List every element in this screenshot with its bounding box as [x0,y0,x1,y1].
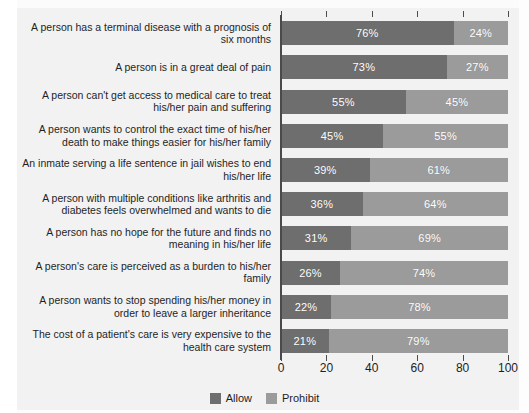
category-label-text: A person's care is perceived as a burden… [18,260,271,285]
category-label: A person wants to control the exact time… [18,119,276,153]
x-tick-mark-top [326,11,327,17]
x-tick-mark-top [463,11,464,17]
bar-segment-allow[interactable]: 31% [281,226,351,250]
category-label-text: The cost of a patient's care is very exp… [18,328,271,353]
chart-page: A person has a terminal disease with a p… [0,0,529,413]
bar-track: 21%79% [281,329,508,353]
legend-item-allow[interactable]: Allow [210,392,252,404]
category-label-text: A person has no hope for the future and … [18,226,271,251]
bar-row: 45%55% [281,124,508,148]
bar-value-prohibit: 24% [469,27,492,39]
bar-track: 45%55% [281,124,508,148]
bar-segment-allow[interactable]: 22% [281,295,331,319]
legend-swatch-icon [210,393,221,404]
bar-segment-prohibit[interactable]: 79% [329,329,508,353]
x-tick-label: 20 [320,361,333,375]
bar-track: 39%61% [281,158,508,182]
category-label-text: A person is in a great deal of pain [115,61,271,74]
bar-row: 21%79% [281,329,508,353]
bar-row: 39%61% [281,158,508,182]
x-tick-mark-bottom [463,355,464,361]
x-axis-tick-labels: 020406080100 [281,361,508,379]
x-tick-mark-bottom [326,355,327,361]
x-tick-label: 40 [365,361,378,375]
x-tick-mark-top [508,11,509,17]
category-label: A person's care is perceived as a burden… [18,255,276,289]
bar-segment-prohibit[interactable]: 55% [383,124,508,148]
legend-item-prohibit[interactable]: Prohibit [266,392,319,404]
bar-row: 73%27% [281,55,508,79]
category-label: A person wants to stop spending his/her … [18,290,276,324]
x-tick-mark-top [372,11,373,17]
bar-value-prohibit: 55% [434,130,457,142]
bar-value-prohibit: 69% [418,232,441,244]
bar-row: 31%69% [281,226,508,250]
bar-segment-allow[interactable]: 26% [281,261,340,285]
bar-track: 73%27% [281,55,508,79]
bar-segment-allow[interactable]: 55% [281,90,406,114]
bar-value-prohibit: 45% [446,96,469,108]
bar-value-prohibit: 78% [408,301,431,313]
category-label-text: A person can't get access to medical car… [18,89,271,114]
category-label: A person has no hope for the future and … [18,221,276,255]
plot-area: 76%24%73%27%55%45%45%55%39%61%36%64%31%6… [281,16,508,358]
bar-row: 55%45% [281,90,508,114]
legend-label: Allow [226,392,252,404]
bar-segment-allow[interactable]: 39% [281,158,370,182]
category-label-text: A person wants to stop spending his/her … [18,294,271,319]
bar-value-allow: 36% [311,198,334,210]
x-tick-mark-bottom [508,355,509,361]
bar-track: 55%45% [281,90,508,114]
bar-segment-prohibit[interactable]: 27% [447,55,508,79]
category-label: The cost of a patient's care is very exp… [18,324,276,358]
bar-track: 31%69% [281,226,508,250]
legend-swatch-icon [266,393,277,404]
category-label-text: A person has a terminal disease with a p… [18,21,271,46]
bar-value-allow: 22% [295,301,318,313]
page-margin-right [519,0,529,413]
category-label-text: A person with multiple conditions like a… [18,192,271,217]
bar-segment-allow[interactable]: 36% [281,192,363,216]
bar-track: 36%64% [281,192,508,216]
chart-legend: AllowProhibit [0,392,529,404]
x-tick-mark-bottom [281,355,282,361]
bar-segment-prohibit[interactable]: 69% [351,226,508,250]
x-tick-label: 80 [456,361,469,375]
bar-segment-allow[interactable]: 73% [281,55,447,79]
category-label: An inmate serving a life sentence in jai… [18,153,276,187]
category-label-text: An inmate serving a life sentence in jai… [18,157,271,182]
bar-segment-prohibit[interactable]: 24% [454,21,508,45]
x-tick-label: 100 [498,361,518,375]
bar-segment-prohibit[interactable]: 64% [363,192,508,216]
bar-segment-prohibit[interactable]: 61% [370,158,508,182]
bar-segment-allow[interactable]: 45% [281,124,383,148]
bar-segment-prohibit[interactable]: 78% [331,295,508,319]
bar-track: 26%74% [281,261,508,285]
legend-label: Prohibit [282,392,319,404]
bar-row: 22%78% [281,295,508,319]
bar-segment-allow[interactable]: 21% [281,329,329,353]
bar-value-allow: 45% [321,130,344,142]
page-margin-left [0,0,17,413]
category-label: A person can't get access to medical car… [18,84,276,118]
bar-row: 36%64% [281,192,508,216]
bar-value-allow: 31% [305,232,328,244]
bar-value-prohibit: 64% [424,198,447,210]
page-margin-top [0,0,529,8]
x-tick-mark-top [417,11,418,17]
bar-value-allow: 26% [299,267,322,279]
x-tick-mark-top [281,11,282,17]
bar-value-allow: 39% [314,164,337,176]
bar-value-prohibit: 27% [466,61,489,73]
bar-segment-prohibit[interactable]: 45% [406,90,508,114]
bar-value-allow: 76% [356,27,379,39]
bar-segment-prohibit[interactable]: 74% [340,261,508,285]
bar-segment-allow[interactable]: 76% [281,21,454,45]
category-label: A person has a terminal disease with a p… [18,16,276,50]
category-label: A person is in a great deal of pain [18,50,276,84]
category-label-text: A person wants to control the exact time… [18,123,271,148]
x-tick-label: 0 [278,361,285,375]
category-label: A person with multiple conditions like a… [18,187,276,221]
bar-value-allow: 55% [332,96,355,108]
y-axis-line [280,15,282,360]
